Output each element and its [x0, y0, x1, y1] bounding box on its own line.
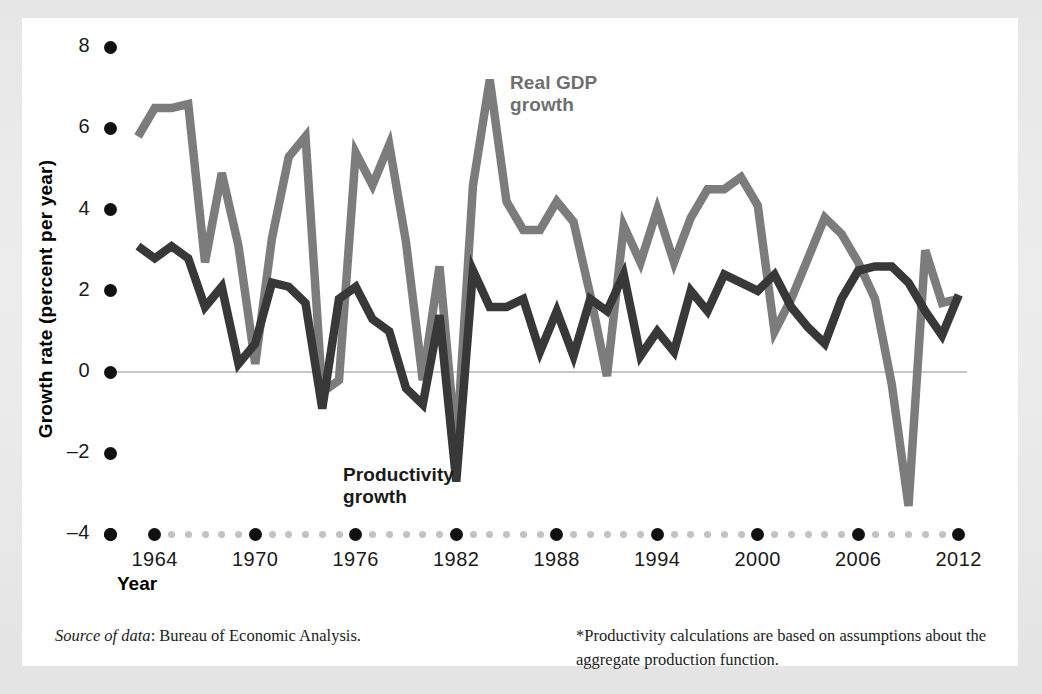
x-tick-dot-minor — [503, 531, 510, 538]
x-tick-label: 2006 — [823, 548, 893, 571]
x-tick-dot-minor — [905, 531, 912, 538]
x-tick-dot-minor — [202, 531, 209, 538]
x-tick-dot-minor — [302, 531, 309, 538]
figure-footer: Source of data: Bureau of Economic Analy… — [22, 618, 1018, 688]
x-tick-label: 2012 — [924, 548, 994, 571]
x-tick-dot-minor — [721, 531, 728, 538]
y-tick-dot — [104, 122, 117, 135]
x-tick-label: 1964 — [120, 548, 190, 571]
y-tick-dot — [104, 447, 117, 460]
annotation-gdp-line1: Real GDP — [510, 72, 597, 94]
x-tick-dot-minor — [168, 531, 175, 538]
series-line-productivity-growth — [138, 246, 959, 481]
x-tick-dot-minor — [319, 531, 326, 538]
x-tick-dot-minor — [922, 531, 929, 538]
x-tick-label: 1994 — [622, 548, 692, 571]
x-tick-dot-minor — [436, 531, 443, 538]
x-tick-dot-minor — [537, 531, 544, 538]
x-tick-dot-minor — [939, 531, 946, 538]
x-tick-dot-minor — [838, 531, 845, 538]
x-tick-dot-minor — [771, 531, 778, 538]
x-axis-title: Year — [117, 573, 157, 595]
x-tick-dot-minor — [369, 531, 376, 538]
x-tick-dot-minor — [637, 531, 644, 538]
annotation-gdp-line2: growth — [510, 94, 597, 116]
source-note: Source of data: Bureau of Economic Analy… — [55, 626, 361, 646]
x-tick-dot-major — [852, 528, 865, 541]
source-note-lead: Source of data — [55, 626, 151, 645]
x-tick-dot-minor — [386, 531, 393, 538]
page-background: 86420–2–4 196419701976198219881994200020… — [0, 0, 1042, 694]
y-axis-title: Growth rate (percent per year) — [35, 79, 57, 519]
x-tick-dot-major — [651, 528, 664, 541]
x-tick-label: 2000 — [723, 548, 793, 571]
y-tick-dot — [104, 366, 117, 379]
source-note-rest: : Bureau of Economic Analysis. — [151, 626, 361, 645]
x-tick-dot-minor — [738, 531, 745, 538]
x-tick-dot-minor — [403, 531, 410, 538]
x-tick-dot-minor — [336, 531, 343, 538]
x-tick-dot-minor — [570, 531, 577, 538]
x-tick-dot-minor — [872, 531, 879, 538]
series-line-real-gdp-growth — [138, 80, 959, 506]
annotation-prod-line2: growth — [343, 486, 454, 508]
x-tick-label: 1970 — [220, 548, 290, 571]
x-tick-dot-minor — [704, 531, 711, 538]
x-tick-dot-minor — [604, 531, 611, 538]
y-tick-dot — [104, 203, 117, 216]
x-tick-dot-minor — [671, 531, 678, 538]
chart-plot-area: 86420–2–4 196419701976198219881994200020… — [22, 18, 1018, 666]
y-tick-label: –4 — [44, 521, 90, 544]
x-tick-label: 1982 — [421, 548, 491, 571]
y-tick-dot — [104, 284, 117, 297]
x-tick-dot-minor — [520, 531, 527, 538]
x-tick-dot-minor — [587, 531, 594, 538]
y-tick-label: 8 — [44, 34, 90, 57]
x-tick-dot-minor — [788, 531, 795, 538]
x-tick-dot-minor — [235, 531, 242, 538]
x-tick-dot-major — [450, 528, 463, 541]
x-tick-dot-major — [249, 528, 262, 541]
x-tick-dot-minor — [269, 531, 276, 538]
annotation-prod-line1: Productivity — [343, 464, 454, 486]
x-tick-dot-minor — [470, 531, 477, 538]
x-axis-origin-dot — [104, 528, 117, 541]
figure-card: 86420–2–4 196419701976198219881994200020… — [22, 18, 1018, 666]
annotation-real-gdp-growth: Real GDP growth — [510, 72, 597, 117]
x-tick-label: 1988 — [522, 548, 592, 571]
footnote: *Productivity calculations are based on … — [576, 624, 996, 672]
annotation-productivity-growth: Productivity growth — [343, 464, 454, 509]
x-tick-dot-minor — [185, 531, 192, 538]
x-tick-label: 1976 — [321, 548, 391, 571]
x-tick-dot-minor — [805, 531, 812, 538]
y-tick-dot — [104, 41, 117, 54]
